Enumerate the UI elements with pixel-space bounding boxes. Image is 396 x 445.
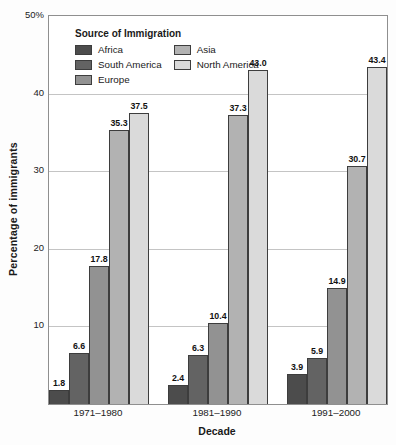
bar-value-label: 43.4 bbox=[362, 55, 392, 65]
y-tick-label-40: 40 bbox=[2, 87, 44, 98]
bar-value-label: 43.0 bbox=[243, 58, 273, 68]
bar-europe bbox=[327, 288, 347, 404]
bar-africa bbox=[49, 390, 69, 404]
y-tick-label-20: 20 bbox=[2, 242, 44, 253]
bar-africa bbox=[168, 385, 188, 404]
bar-europe bbox=[89, 266, 109, 404]
y-axis-title: Percentage of immigrants bbox=[7, 142, 19, 276]
bar-africa bbox=[287, 374, 307, 404]
bar-north-america bbox=[367, 67, 387, 404]
bar-asia bbox=[347, 166, 367, 404]
bar-asia bbox=[109, 130, 129, 404]
x-axis-title: Decade bbox=[48, 425, 386, 437]
bar-value-label: 37.5 bbox=[124, 101, 154, 111]
bar-south-america bbox=[307, 358, 327, 404]
bar-group-1991–2000: 3.95.914.930.743.4 bbox=[287, 16, 387, 404]
bar-north-america bbox=[129, 113, 149, 404]
x-tick-label: 1971–1980 bbox=[53, 407, 143, 418]
bar-group-1971–1980: 1.86.617.835.337.5 bbox=[49, 16, 149, 404]
bar-asia bbox=[228, 115, 248, 404]
bar-south-america bbox=[69, 353, 89, 404]
bar-north-america bbox=[248, 70, 268, 404]
x-tick-label: 1991–2000 bbox=[291, 407, 381, 418]
plot-area: Source of Immigration AfricaSouth Americ… bbox=[48, 15, 388, 405]
x-tick-label: 1981–1990 bbox=[172, 407, 262, 418]
y-axis-title-box: Percentage of immigrants bbox=[0, 15, 26, 403]
bar-south-america bbox=[188, 355, 208, 404]
immigration-bar-chart: Percentage of immigrants Source of Immig… bbox=[0, 0, 396, 445]
bar-group-1981–1990: 2.46.310.437.343.0 bbox=[168, 16, 268, 404]
y-tick-label-10: 10 bbox=[2, 319, 44, 330]
bar-europe bbox=[208, 323, 228, 404]
y-tick-label-50: 50% bbox=[2, 9, 44, 20]
y-tick-label-30: 30 bbox=[2, 164, 44, 175]
